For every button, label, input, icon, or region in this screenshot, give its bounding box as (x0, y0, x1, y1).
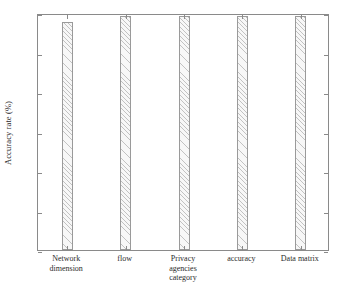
x-tick-mark (301, 246, 302, 250)
x-tick-label-line: Data matrix (263, 254, 337, 264)
y-tick-mark-right (324, 94, 328, 95)
x-tick-mark (242, 246, 243, 250)
x-tick-mark (126, 246, 127, 250)
x-tick-label-line: dimension (29, 264, 103, 274)
x-tick-mark-top (301, 15, 302, 19)
y-axis-title: Accuracy rate (%) (3, 101, 13, 165)
bar (62, 22, 73, 250)
x-tick-mark-top (67, 15, 68, 19)
y-tick-mark (38, 55, 42, 56)
y-tick-mark (38, 15, 42, 16)
y-axis-title-container: Accuracy rate (%) (0, 14, 16, 251)
y-tick-mark (38, 213, 42, 214)
bar (179, 16, 190, 250)
y-tick-mark (38, 252, 42, 253)
bar (120, 16, 131, 250)
x-axis-title: category (146, 273, 220, 283)
x-tick-label-line: agencies (146, 264, 220, 274)
x-tick-mark-top (126, 15, 127, 19)
y-tick-mark-right (324, 252, 328, 253)
y-tick-mark (38, 94, 42, 95)
y-tick-mark-right (324, 134, 328, 135)
y-tick-mark-right (324, 55, 328, 56)
y-tick-mark (38, 134, 42, 135)
y-tick-mark-right (324, 173, 328, 174)
bar-chart-figure: Accuracy rate (%) 707580859095100 Networ… (0, 0, 340, 290)
y-tick-mark-right (324, 15, 328, 16)
x-tick-mark (184, 246, 185, 250)
x-tick-mark (67, 246, 68, 250)
plot-inner: 707580859095100 (38, 15, 328, 250)
x-tick-label: Data matrix (263, 254, 337, 264)
y-tick-mark-right (324, 213, 328, 214)
y-tick-mark (38, 173, 42, 174)
plot-area: 707580859095100 (37, 14, 329, 251)
x-tick-mark-top (184, 15, 185, 19)
x-tick-mark-top (242, 15, 243, 19)
bar (237, 16, 248, 250)
bar (295, 16, 306, 250)
